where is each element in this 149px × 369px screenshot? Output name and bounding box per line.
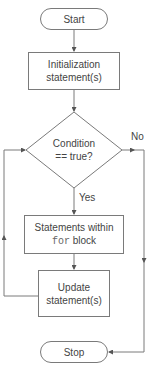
- update-node: Update statement(s): [38, 270, 110, 317]
- no-label: No: [131, 131, 144, 142]
- update-label-line1: Update: [46, 281, 102, 294]
- stop-label: Stop: [64, 346, 85, 359]
- initialization-label-line2: statement(s): [46, 71, 102, 84]
- block-text: block: [70, 235, 96, 246]
- loop-body-node: Statements within for block: [24, 215, 124, 254]
- loop-body-label-line2: for block: [35, 234, 114, 248]
- condition-label-line2: == true?: [34, 150, 114, 163]
- stop-node: Stop: [40, 341, 108, 363]
- for-keyword: for: [52, 236, 70, 247]
- initialization-label-line1: Initialization: [46, 58, 102, 71]
- update-label-line2: statement(s): [46, 294, 102, 307]
- initialization-node: Initialization statement(s): [28, 52, 120, 90]
- condition-label: Condition == true?: [34, 137, 114, 163]
- condition-label-line1: Condition: [34, 137, 114, 150]
- loop-body-label-line1: Statements within: [35, 221, 114, 234]
- start-label: Start: [63, 13, 84, 26]
- yes-label: Yes: [79, 192, 95, 203]
- start-node: Start: [40, 8, 108, 30]
